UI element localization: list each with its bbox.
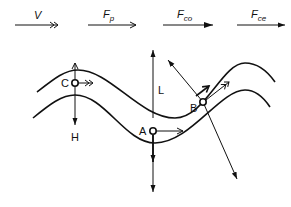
point-c-marker	[72, 80, 78, 86]
legend-fp-label: Fp	[103, 8, 115, 23]
flow-direction-arrow-icon	[196, 86, 209, 96]
diagonal-up-arrow-icon	[168, 60, 203, 102]
point-b-label: B	[190, 102, 197, 114]
horizontal-label: H	[71, 131, 79, 143]
point-a-label: A	[139, 125, 147, 137]
point-c-label: C	[61, 77, 69, 89]
diagram-svg: V Fp Fco Fce L H C A B	[0, 0, 291, 207]
legend-fco: Fco	[163, 8, 213, 25]
point-b-marker	[200, 99, 206, 105]
lift-label: L	[158, 84, 164, 96]
flow-force-diagram: V Fp Fco Fce L H C A B	[0, 0, 291, 207]
legend-v-label: V	[34, 9, 43, 21]
legend-fce-label: Fce	[251, 8, 267, 23]
legend-v: V	[15, 9, 58, 25]
point-a-marker	[150, 128, 156, 134]
legend-fco-label: Fco	[177, 8, 193, 23]
diagonal-down-arrow-icon	[203, 102, 237, 179]
legend-fce: Fce	[237, 8, 285, 25]
legend-fp: Fp	[88, 8, 136, 25]
lower-streamline	[33, 90, 270, 143]
